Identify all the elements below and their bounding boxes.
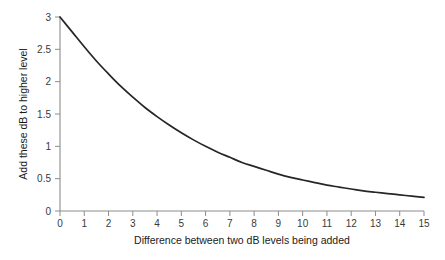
y-axis-tick-label: 2.5 <box>37 44 51 55</box>
x-axis-tick-label: 5 <box>179 218 185 229</box>
x-axis-tick-label: 1 <box>81 218 87 229</box>
y-axis-tick-label: 2 <box>45 76 51 87</box>
x-axis-tick-label: 14 <box>394 218 406 229</box>
x-axis-title: Difference between two dB levels being a… <box>134 234 350 246</box>
x-axis-tick-label: 0 <box>57 218 63 229</box>
y-axis-title: Add these dB to higher level <box>17 48 29 179</box>
x-axis-tick-label: 9 <box>276 218 282 229</box>
x-axis-tick-label: 10 <box>297 218 309 229</box>
y-axis-tick-label: 0 <box>45 206 51 217</box>
x-axis-tick-label: 12 <box>346 218 358 229</box>
x-axis-tick-label: 7 <box>227 218 233 229</box>
x-axis-tick-label: 13 <box>370 218 382 229</box>
chart-figure: 0123456789101112131415 00.511.522.53 Dif… <box>0 0 445 260</box>
x-axis-tick-label: 8 <box>251 218 257 229</box>
y-axis-tick-label: 1 <box>45 141 51 152</box>
x-axis-tick-label: 4 <box>154 218 160 229</box>
y-axis-tick-label: 0.5 <box>37 173 51 184</box>
x-axis-tick-label: 3 <box>130 218 136 229</box>
y-axis-tick-label: 3 <box>45 12 51 23</box>
y-axis-tick-label: 1.5 <box>37 109 51 120</box>
x-axis-tick-label: 15 <box>418 218 430 229</box>
x-axis-tick-label: 11 <box>322 218 333 229</box>
chart-canvas: 0123456789101112131415 00.511.522.53 Dif… <box>0 0 445 260</box>
x-axis-tick-label: 6 <box>203 218 209 229</box>
x-axis-tick-label: 2 <box>106 218 112 229</box>
